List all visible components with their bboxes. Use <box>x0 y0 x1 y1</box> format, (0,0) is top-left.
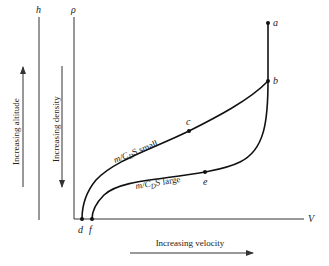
trajectory-curve-small <box>82 81 268 219</box>
curve-label-large-prefix: m/C <box>135 179 152 191</box>
increasing-density-label: Increasing density <box>51 96 61 162</box>
point-c <box>187 129 191 133</box>
point-b-label: b <box>273 75 278 86</box>
curve-label-large: m/CDS large <box>135 174 181 193</box>
velocity-axis-label: V <box>308 213 316 224</box>
reentry-velocity-density-diagram: h Increasing altitude Increasing density… <box>0 0 329 266</box>
curve-label-small-suffix: S small <box>131 138 160 157</box>
point-d-label: d <box>78 224 84 235</box>
point-d <box>80 217 84 221</box>
curve-label-small: m/CDS small <box>112 138 160 167</box>
point-a-label: a <box>273 17 278 28</box>
increasing-velocity-label: Increasing velocity <box>156 238 225 248</box>
point-b <box>266 79 270 83</box>
altitude-axis-label: h <box>36 4 41 15</box>
point-e <box>203 170 207 174</box>
point-c-label: c <box>186 116 191 127</box>
point-a <box>266 21 270 25</box>
density-axis-label: ρ <box>70 4 76 15</box>
point-f-label: f <box>89 224 93 235</box>
curve-label-small-prefix: m/C <box>112 150 131 165</box>
increasing-altitude-label: Increasing altitude <box>11 98 21 165</box>
point-f <box>90 217 94 221</box>
curve-label-large-suffix: S large <box>155 174 181 188</box>
point-e-label: e <box>203 176 208 187</box>
